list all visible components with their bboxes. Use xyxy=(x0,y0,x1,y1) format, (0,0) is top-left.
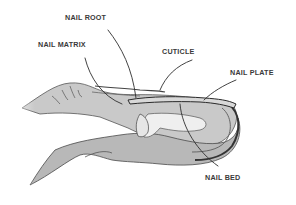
finger-illustration xyxy=(0,60,240,200)
label-nail-root: NAIL ROOT xyxy=(65,13,107,22)
label-nail-bed: NAIL BED xyxy=(205,173,240,182)
label-nail-matrix: NAIL MATRIX xyxy=(38,40,86,49)
label-cuticle: CUTICLE xyxy=(162,47,195,56)
nail-anatomy-diagram: NAIL ROOT NAIL MATRIX CUTICLE NAIL PLATE… xyxy=(0,0,296,205)
leader-nail-plate xyxy=(204,80,236,100)
fade-overlay xyxy=(0,60,140,200)
leader-cuticle xyxy=(160,60,192,90)
label-nail-plate: NAIL PLATE xyxy=(230,68,274,77)
